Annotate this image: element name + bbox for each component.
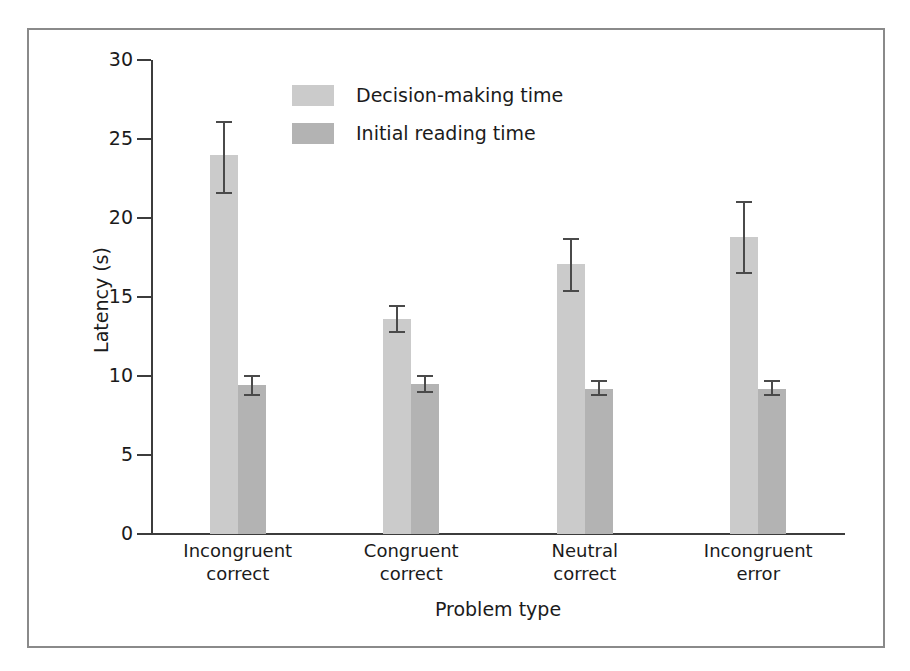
legend: Decision-making timeInitial reading time [292,80,563,156]
y-tick-label: 5 [93,445,133,464]
error-bar-cap-bottom [244,394,260,396]
error-bar-stem [251,376,253,395]
x-category-label-line: correct [151,563,325,586]
error-bar-stem [743,202,745,273]
error-bar-cap-bottom [216,192,232,194]
legend-item: Initial reading time [292,118,563,148]
error-bar-cap-top [417,375,433,377]
x-category-label: Neutralcorrect [498,540,672,585]
error-bar-stem [424,376,426,392]
x-category-label: Incongruenterror [672,540,846,585]
x-category-label: Incongruentcorrect [151,540,325,585]
bar [557,264,585,534]
y-tick-mark [137,59,151,61]
y-tick-mark [137,217,151,219]
y-tick-label: 25 [93,129,133,148]
error-bar-stem [223,122,225,193]
x-category-label-line: correct [325,563,499,586]
legend-label: Initial reading time [356,122,536,144]
x-axis-title: Problem type [151,598,845,620]
error-bar-cap-bottom [764,394,780,396]
y-tick-label: 0 [93,524,133,543]
y-tick-mark [137,296,151,298]
error-bar-stem [570,239,572,291]
y-tick-mark [137,454,151,456]
error-bar-cap-top [591,380,607,382]
bar-chart: 051015202530 Latency (s) Incongruentcorr… [0,0,910,671]
bar [730,237,758,534]
error-bar-cap-bottom [736,272,752,274]
error-bar-cap-bottom [563,290,579,292]
x-category-label-line: correct [498,563,672,586]
x-category-label-line: Incongruent [151,540,325,563]
x-category-label-line: error [672,563,846,586]
y-axis-line [151,60,153,535]
y-tick-mark [137,138,151,140]
error-bar-cap-top [563,238,579,240]
error-bar-cap-top [764,380,780,382]
y-tick-mark [137,375,151,377]
x-category-label-line: Neutral [498,540,672,563]
error-bar-cap-top [244,375,260,377]
error-bar-cap-bottom [417,391,433,393]
error-bar-stem [396,306,398,331]
error-bar-cap-bottom [591,394,607,396]
bar [758,389,786,534]
error-bar-cap-bottom [389,331,405,333]
x-category-label: Congruentcorrect [325,540,499,585]
legend-label: Decision-making time [356,84,563,106]
bar [210,155,238,534]
bar [383,319,411,534]
bar [411,384,439,534]
legend-swatch [292,85,334,106]
y-axis-title: Latency (s) [90,200,112,400]
error-bar-cap-top [389,305,405,307]
x-category-label-line: Incongruent [672,540,846,563]
error-bar-stem [598,381,600,395]
error-bar-cap-top [736,201,752,203]
y-tick-mark [137,533,151,535]
error-bar-stem [771,381,773,395]
x-category-label-line: Congruent [325,540,499,563]
legend-item: Decision-making time [292,80,563,110]
legend-swatch [292,123,334,144]
bar [585,389,613,534]
bar [238,385,266,534]
y-tick-label: 30 [93,50,133,69]
error-bar-cap-top [216,121,232,123]
